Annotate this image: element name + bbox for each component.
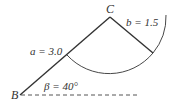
side-b-label: b = 1.5: [126, 16, 159, 28]
side-a-label: a = 3.0: [30, 45, 63, 57]
angle-beta-label: β = 40°: [43, 80, 78, 92]
triangle-diagram: C B a = 3.0 b = 1.5 β = 40°: [0, 0, 174, 107]
point-c-label: C: [106, 2, 115, 16]
swing-arc-lower: [67, 53, 153, 74]
point-b-label: B: [11, 88, 19, 102]
